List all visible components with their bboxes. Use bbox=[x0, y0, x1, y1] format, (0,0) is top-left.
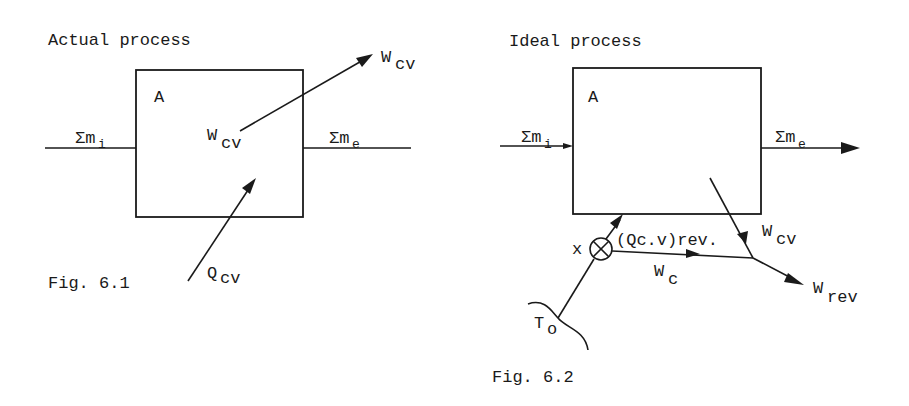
svg-text:i: i bbox=[98, 137, 106, 152]
work-inner-label: W cv bbox=[207, 126, 241, 153]
svg-text:T: T bbox=[534, 314, 544, 333]
arrowhead-icon bbox=[563, 143, 573, 149]
diagram-canvas: Actual process A Σm i Σm e W cv W cv bbox=[0, 0, 909, 406]
svg-text:Σm: Σm bbox=[329, 129, 349, 148]
svg-text:rev: rev bbox=[827, 288, 858, 307]
box-label: A bbox=[154, 88, 165, 107]
box-label: A bbox=[588, 88, 599, 107]
svg-text:Σm: Σm bbox=[775, 128, 795, 147]
svg-text:e: e bbox=[798, 137, 806, 152]
svg-text:c: c bbox=[668, 270, 678, 289]
svg-text:cv: cv bbox=[220, 269, 240, 288]
svg-text:Σm: Σm bbox=[521, 128, 541, 147]
svg-text:W: W bbox=[813, 279, 824, 298]
work-cv-label: W cv bbox=[762, 222, 796, 249]
heat-arrow bbox=[188, 184, 252, 281]
figure-caption: Fig. 6.1 bbox=[48, 274, 130, 293]
heat-rev-label: (Qc.v)rev. bbox=[616, 231, 718, 250]
heat-label: Q cv bbox=[207, 264, 240, 288]
svg-text:W: W bbox=[762, 222, 773, 241]
arrowhead-icon bbox=[841, 142, 860, 154]
figure-title: Actual process bbox=[48, 31, 191, 50]
work-rev-label: W rev bbox=[813, 279, 858, 307]
work-outer-label: W cv bbox=[381, 48, 415, 74]
svg-text:Σm: Σm bbox=[75, 129, 95, 148]
arrowhead-icon bbox=[356, 54, 373, 67]
arrowhead-icon bbox=[610, 214, 623, 229]
engine-label: x bbox=[572, 240, 582, 259]
svg-text:cv: cv bbox=[221, 134, 241, 153]
svg-text:i: i bbox=[544, 137, 552, 152]
arrowhead-icon bbox=[686, 249, 700, 258]
figure-actual-process: Actual process A Σm i Σm e W cv W cv bbox=[45, 31, 415, 293]
work-c-label: W c bbox=[654, 262, 678, 289]
reservoir-link-line bbox=[558, 259, 594, 318]
figure-title: Ideal process bbox=[509, 32, 642, 51]
svg-text:e: e bbox=[352, 137, 360, 152]
figure-ideal-process: Ideal process A Σm i Σm e W cv x bbox=[492, 32, 860, 387]
reversible-engine-icon bbox=[590, 238, 612, 260]
svg-text:Q: Q bbox=[207, 264, 217, 283]
svg-text:o: o bbox=[547, 320, 557, 339]
figure-caption: Fig. 6.2 bbox=[492, 368, 574, 387]
svg-text:W: W bbox=[381, 48, 392, 67]
arrowhead-icon bbox=[784, 273, 804, 285]
svg-text:cv: cv bbox=[776, 230, 796, 249]
svg-text:W: W bbox=[654, 262, 665, 281]
control-volume-box bbox=[573, 68, 761, 214]
svg-text:W: W bbox=[207, 126, 218, 145]
inflow-label: Σm i bbox=[521, 128, 552, 152]
reservoir-label: T o bbox=[534, 314, 557, 339]
arrowhead-icon bbox=[242, 178, 256, 194]
work-c-arrow bbox=[612, 251, 753, 258]
svg-text:cv: cv bbox=[395, 55, 415, 74]
